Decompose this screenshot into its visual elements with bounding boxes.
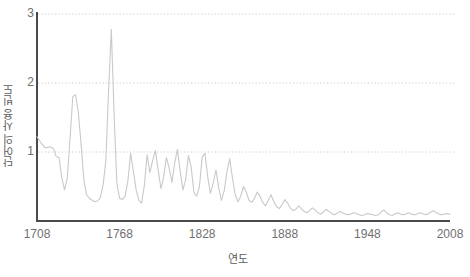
series-path-0	[37, 29, 450, 215]
frequency-line-chart: 단어의 사용 빈도 123 170817681828188819482008 연…	[0, 0, 470, 277]
x-axis-title: 연도	[208, 250, 268, 266]
x-tick-label-1768: 1768	[90, 228, 150, 240]
series-line-word-frequency	[0, 0, 470, 277]
x-tick-label-1948: 1948	[337, 228, 397, 240]
x-tick-label-1708: 1708	[7, 228, 67, 240]
x-tick-label-1828: 1828	[172, 228, 232, 240]
x-tick-label-2008: 2008	[420, 228, 470, 240]
x-tick-label-1888: 1888	[255, 228, 315, 240]
